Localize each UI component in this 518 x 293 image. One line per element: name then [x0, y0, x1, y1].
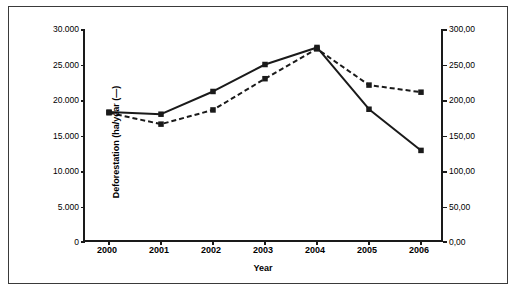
x-axis-ticks: 2000 2001 2002 2003 2004 2005 2006	[83, 245, 443, 259]
chart-frame: 30.000 25.000 20.000 15.000 10.000 5.000…	[8, 6, 508, 284]
y-axis-left-tick-label: 15.000	[53, 131, 79, 141]
y-axis-right-tick-label: 50,00	[449, 202, 470, 212]
y-axis-right-tick-label: 200,00	[449, 95, 475, 105]
x-axis-tick-label: 2005	[357, 245, 377, 255]
y-axis-right-tick-label: 250,00	[449, 60, 475, 70]
y-axis-right-tick-label: 100,00	[449, 166, 475, 176]
series-deforestation-markers	[106, 45, 424, 153]
chart-container: 30.000 25.000 20.000 15.000 10.000 5.000…	[0, 0, 518, 293]
y-axis-left-tick-label: 10.000	[53, 166, 79, 176]
y-axis-left-tick-label: 25.000	[53, 60, 79, 70]
plot-inner	[85, 29, 441, 240]
y-axis-left-tick-label: 20.000	[53, 95, 79, 105]
y-axis-left-ticks: 30.000 25.000 20.000 15.000 10.000 5.000…	[9, 29, 79, 242]
y-axis-left-tick-label: 30.000	[53, 24, 79, 34]
y-axis-right-tick-label: 150,00	[449, 131, 475, 141]
y-axis-left-tick-label: 0	[74, 237, 79, 247]
x-axis-tick-label: 2000	[97, 245, 117, 255]
y-axis-left-title: Deforestation (ha/year (—)	[111, 32, 121, 252]
plot-area: Deforestation (ha/year (—) Soybean price…	[83, 29, 443, 242]
y-axis-right-tick-label: 0,00	[449, 237, 466, 247]
y-axis-right-ticks: 300,00 250,00 200,00 150,00 100,00 50,00…	[445, 29, 491, 242]
x-axis-tick-label: 2001	[149, 245, 169, 255]
x-axis-tick-label: 2004	[305, 245, 325, 255]
series-lines	[85, 29, 445, 242]
y-axis-right-tick-label: 300,00	[449, 24, 475, 34]
y-axis-left-tick-label: 5.000	[58, 202, 79, 212]
x-axis-tick-label: 2002	[201, 245, 221, 255]
x-axis-tick-label: 2003	[253, 245, 273, 255]
x-axis-tick-label: 2006	[409, 245, 429, 255]
x-axis-title: Year	[83, 263, 443, 273]
